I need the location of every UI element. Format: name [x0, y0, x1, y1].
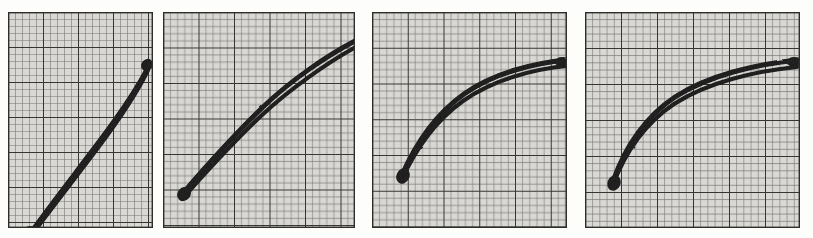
paper-grain: [585, 12, 800, 228]
chart-panel-3: [372, 12, 567, 228]
figure-container: [0, 0, 813, 238]
paper-grain: [8, 12, 153, 228]
paper-grain: [372, 12, 567, 228]
chart-panel-1: [8, 12, 153, 228]
panel-4-plot: [585, 12, 800, 228]
panel-2-plot: [163, 12, 355, 228]
chart-panel-2: [163, 12, 355, 228]
panel-3-plot: [372, 12, 567, 228]
chart-panel-4: [585, 12, 800, 228]
panel-1-plot: [8, 12, 153, 228]
paper-grain: [163, 12, 355, 228]
